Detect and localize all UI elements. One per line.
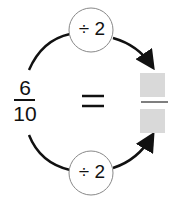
bottom-operation-label: ÷ 2	[74, 161, 110, 183]
fraction-diagram: ÷ 2 ÷ 2 6 10	[0, 0, 179, 203]
bottom-arc-right	[113, 136, 152, 168]
answer-denominator-input[interactable]	[140, 109, 165, 133]
left-numerator: 6	[14, 76, 36, 100]
top-arc-left	[29, 34, 70, 70]
answer-numerator-input[interactable]	[140, 73, 165, 97]
bottom-arc-left	[29, 135, 70, 170]
top-arc-right	[113, 38, 152, 66]
left-denominator: 10	[11, 102, 39, 126]
top-operation-label: ÷ 2	[74, 18, 110, 40]
